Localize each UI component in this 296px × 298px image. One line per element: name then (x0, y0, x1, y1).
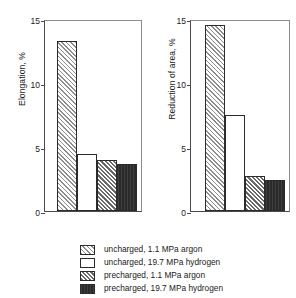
legend-swatch-hatch-dark (80, 271, 95, 281)
bar-right-3 (245, 176, 265, 211)
y-axis-title-left: Elongation, % (17, 17, 27, 141)
chart-panel-elongation: Elongation, % 051015 (0, 0, 148, 232)
bar-right-4 (265, 180, 285, 211)
legend: uncharged, 1.1 MPa argonuncharged, 19.7 … (80, 243, 290, 295)
y-tick-label: 15 (177, 17, 186, 26)
bar-right-1 (205, 25, 225, 211)
y-tick-label: 0 (181, 209, 186, 218)
legend-label: uncharged, 19.7 MPa hydrogen (104, 258, 220, 266)
legend-label: precharged, 1.1 MPa argon (104, 271, 205, 279)
y-tick-label: 10 (177, 81, 186, 90)
y-tick-label: 15 (31, 17, 40, 26)
y-tick-label: 0 (35, 209, 40, 218)
tick-mark-icon (41, 213, 45, 214)
plot-area-left: 051015 (44, 20, 142, 212)
legend-label: precharged, 19.7 MPa hydrogen (104, 284, 223, 292)
legend-item: uncharged, 1.1 MPa argon (80, 243, 290, 256)
legend-swatch-solid (80, 284, 95, 294)
bar-group-left (45, 21, 141, 211)
bar-left-4 (117, 164, 137, 211)
y-tick-label: 10 (31, 81, 40, 90)
y-axis-title-right: Reduction of area, % (167, 17, 177, 141)
bar-left-1 (57, 41, 77, 211)
chart-panel-reduction-of-area: Reduction of area, % 051015 (148, 0, 296, 232)
bar-right-2 (225, 115, 245, 211)
y-tick-label: 5 (181, 145, 186, 154)
legend-item: uncharged, 19.7 MPa hydrogen (80, 256, 290, 269)
plot-area-right: 051015 (190, 20, 290, 212)
legend-label: uncharged, 1.1 MPa argon (104, 245, 202, 253)
legend-item: precharged, 19.7 MPa hydrogen (80, 282, 290, 295)
bar-group-right (191, 21, 289, 211)
bar-left-3 (97, 160, 117, 211)
legend-item: precharged, 1.1 MPa argon (80, 269, 290, 282)
y-tick-label: 5 (35, 145, 40, 154)
legend-swatch-hatch-light (80, 245, 95, 255)
tick-mark-icon (187, 213, 191, 214)
legend-swatch-open (80, 258, 95, 268)
bar-left-2 (77, 154, 97, 211)
figure: Elongation, % 051015 Reduction of area, … (0, 0, 296, 298)
